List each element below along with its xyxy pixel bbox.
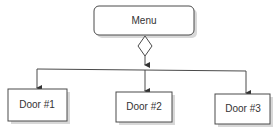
connector-horizontal-bus	[37, 69, 246, 71]
door-2-label: Door #2	[126, 101, 162, 112]
menu-label: Menu	[131, 15, 156, 26]
door-1-node: Door #1	[8, 89, 70, 124]
door-2-node: Door #2	[116, 92, 175, 125]
menu-node: Menu	[94, 6, 197, 38]
decision-diamond	[138, 36, 152, 56]
door-3-node: Door #3	[215, 94, 273, 127]
door-1-label: Door #1	[19, 99, 55, 110]
flowchart-canvas: Menu Door #1 Door #2 Door #3	[0, 0, 278, 129]
connectors	[37, 56, 246, 93]
door-3-label: Door #3	[225, 103, 261, 114]
